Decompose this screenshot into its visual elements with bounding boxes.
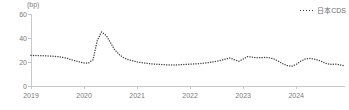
x-tick-mark xyxy=(190,86,191,89)
legend-line-swatch-icon xyxy=(300,9,314,13)
y-tick-label-60: 60 xyxy=(10,11,27,18)
y-tick-label-20: 20 xyxy=(10,59,27,66)
plot-area xyxy=(31,14,345,86)
series-japan-cds xyxy=(31,14,345,86)
x-tick-label-2024: 2024 xyxy=(281,92,311,99)
x-tick-mark xyxy=(243,86,244,89)
x-tick-mark xyxy=(296,86,297,89)
x-tick-label-2019: 2019 xyxy=(16,92,46,99)
y-tick-label-0: 0 xyxy=(10,83,27,90)
x-tick-mark xyxy=(84,86,85,89)
x-tick-mark xyxy=(137,86,138,89)
y-tick-text: 20 xyxy=(19,59,27,66)
x-axis-line xyxy=(31,86,345,87)
y-tick-text: 0 xyxy=(23,83,27,90)
y-tick-text: 60 xyxy=(19,11,27,18)
x-tick-label-2020: 2020 xyxy=(69,92,99,99)
cds-line-chart: (bp) 日本CDS 0204060 201920202021202220232… xyxy=(0,0,349,110)
y-axis-unit-label: (bp) xyxy=(27,1,39,8)
y-tick-text: 40 xyxy=(19,35,27,42)
x-tick-label-2022: 2022 xyxy=(175,92,205,99)
y-tick-label-40: 40 xyxy=(10,35,27,42)
x-tick-label-2023: 2023 xyxy=(228,92,258,99)
x-tick-mark xyxy=(31,86,32,89)
x-tick-label-2021: 2021 xyxy=(122,92,152,99)
